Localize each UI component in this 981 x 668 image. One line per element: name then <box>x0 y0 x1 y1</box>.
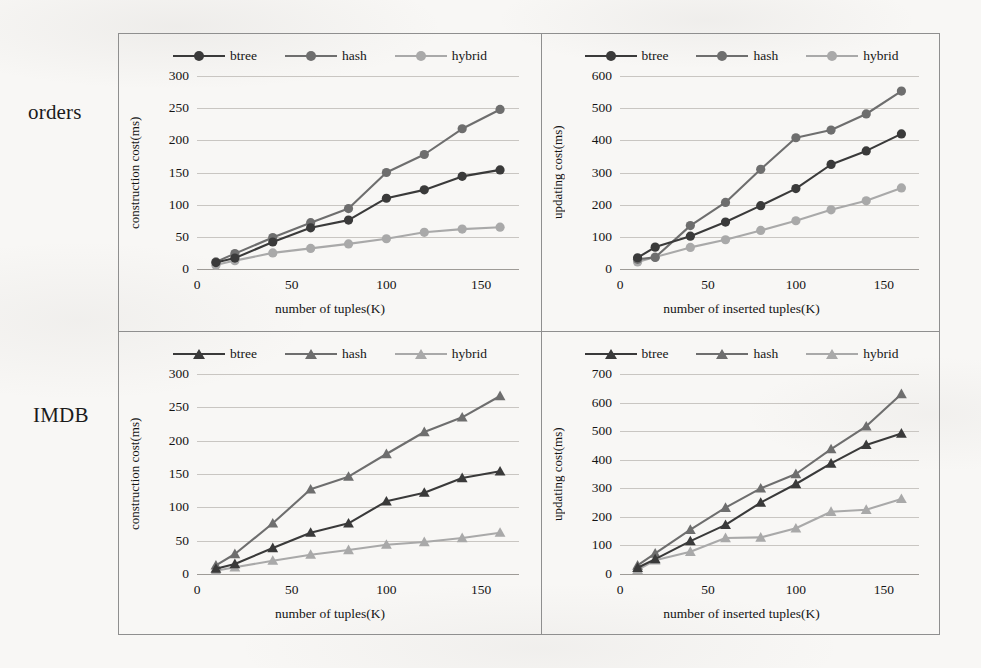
data-point-marker <box>756 201 765 210</box>
data-point-marker <box>721 198 730 207</box>
data-point-marker <box>896 428 907 438</box>
data-point-marker <box>381 449 392 459</box>
chart-cell-imdb-updating: btreehashhybridupdating cost(ms)01002003… <box>542 332 941 636</box>
data-point-marker <box>651 243 660 252</box>
row-label-orders: orders <box>28 100 82 125</box>
chart-grid: btreehashhybridconstruction cost(ms)0501… <box>118 33 940 635</box>
data-point-marker <box>686 221 695 230</box>
series-hybrid <box>632 493 907 573</box>
data-point-marker <box>896 389 907 399</box>
data-point-marker <box>343 518 354 528</box>
data-point-marker <box>344 204 353 213</box>
data-point-marker <box>720 519 731 529</box>
data-point-marker <box>756 165 765 174</box>
series-hybrid <box>211 223 504 270</box>
data-point-marker <box>826 160 835 169</box>
data-point-marker <box>826 458 837 468</box>
data-point-marker <box>211 258 220 267</box>
data-point-marker <box>896 493 907 503</box>
series-line-hash <box>638 91 902 259</box>
series-btree <box>211 165 504 267</box>
data-point-marker <box>721 217 730 226</box>
data-point-marker <box>790 479 801 489</box>
data-point-marker <box>230 253 239 262</box>
data-point-marker <box>420 185 429 194</box>
data-point-marker <box>420 228 429 237</box>
data-point-marker <box>495 165 504 174</box>
data-point-marker <box>633 253 642 262</box>
series-hybrid <box>633 183 906 266</box>
series-layer <box>119 34 541 331</box>
series-line-hash <box>216 110 500 262</box>
data-point-marker <box>755 497 766 507</box>
data-point-marker <box>826 125 835 134</box>
data-point-marker <box>382 168 391 177</box>
series-line-hybrid <box>216 227 500 265</box>
data-point-marker <box>268 237 277 246</box>
data-point-marker <box>685 524 696 534</box>
data-point-marker <box>495 466 506 476</box>
data-point-marker <box>862 109 871 118</box>
data-point-marker <box>756 226 765 235</box>
data-point-marker <box>790 469 801 479</box>
data-point-marker <box>685 536 696 546</box>
data-point-marker <box>721 235 730 244</box>
series-btree <box>211 466 506 573</box>
series-line-hybrid <box>216 533 500 571</box>
data-point-marker <box>495 223 504 232</box>
series-layer <box>542 34 941 331</box>
series-line-hash <box>638 394 902 565</box>
data-point-marker <box>720 502 731 512</box>
series-line-btree <box>638 433 902 567</box>
data-point-marker <box>306 244 315 253</box>
data-point-marker <box>862 196 871 205</box>
data-point-marker <box>897 129 906 138</box>
data-point-marker <box>791 216 800 225</box>
data-point-marker <box>306 223 315 232</box>
series-line-hybrid <box>638 499 902 570</box>
series-line-hybrid <box>638 188 902 262</box>
row-label-imdb: IMDB <box>33 403 89 428</box>
data-point-marker <box>897 183 906 192</box>
data-point-marker <box>458 124 467 133</box>
data-point-marker <box>495 105 504 114</box>
series-line-btree <box>216 471 500 568</box>
data-point-marker <box>458 225 467 234</box>
series-hash <box>633 87 906 264</box>
series-hybrid <box>211 527 506 575</box>
data-point-marker <box>791 133 800 142</box>
data-point-marker <box>862 146 871 155</box>
chart-cell-orders-construction: btreehashhybridconstruction cost(ms)0501… <box>119 34 541 331</box>
data-point-marker <box>686 243 695 252</box>
series-line-btree <box>216 170 500 263</box>
data-point-marker <box>382 234 391 243</box>
series-hash <box>632 389 907 570</box>
data-point-marker <box>382 194 391 203</box>
series-layer <box>542 332 941 636</box>
data-point-marker <box>791 184 800 193</box>
data-point-marker <box>344 216 353 225</box>
series-layer <box>119 332 541 636</box>
data-point-marker <box>420 150 429 159</box>
data-point-marker <box>897 87 906 96</box>
series-line-btree <box>638 134 902 258</box>
figure-page: orders IMDB btreehashhybridconstruction … <box>0 0 981 668</box>
data-point-marker <box>495 527 506 537</box>
data-point-marker <box>343 471 354 481</box>
data-point-marker <box>458 172 467 181</box>
data-point-marker <box>457 412 468 422</box>
data-point-marker <box>495 391 506 401</box>
data-point-marker <box>686 232 695 241</box>
chart-cell-imdb-construction: btreehashhybridconstruction cost(ms)0501… <box>119 332 541 636</box>
data-point-marker <box>826 444 837 454</box>
data-point-marker <box>268 248 277 257</box>
series-btree <box>632 428 907 572</box>
data-point-marker <box>344 239 353 248</box>
chart-cell-orders-updating: btreehashhybridupdating cost(ms)01002003… <box>542 34 941 331</box>
series-btree <box>633 129 906 262</box>
data-point-marker <box>826 205 835 214</box>
data-point-marker <box>651 253 660 262</box>
